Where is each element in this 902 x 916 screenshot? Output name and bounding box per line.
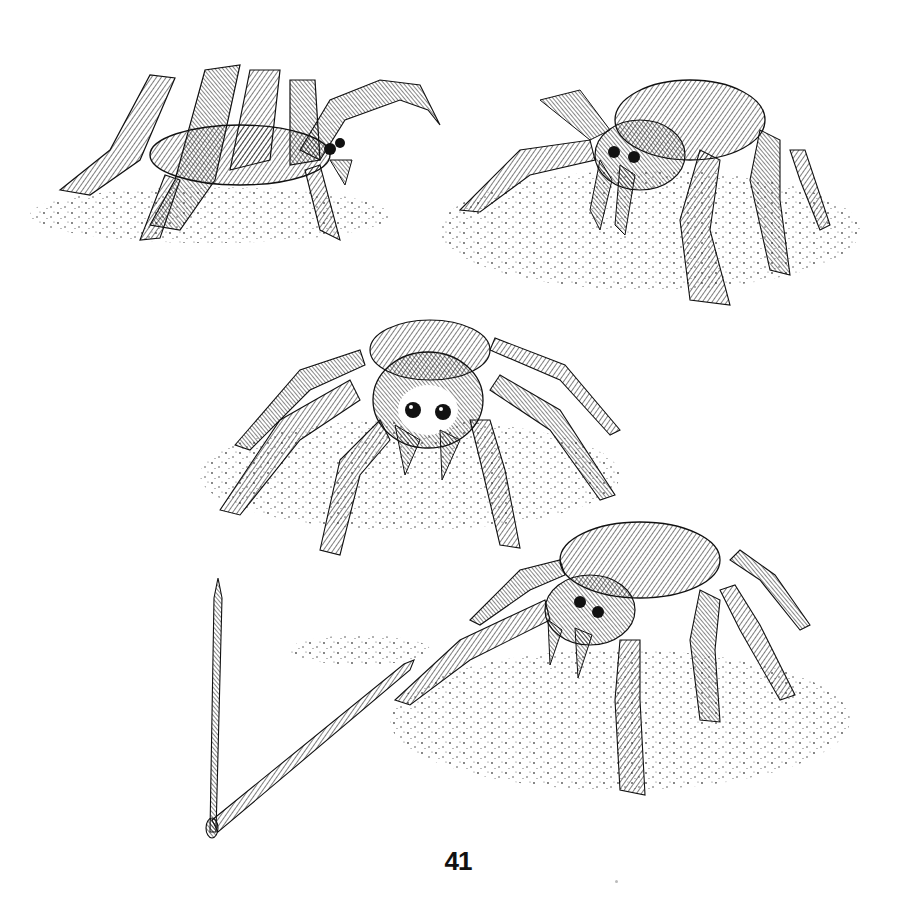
page-number: 41 bbox=[428, 846, 488, 877]
crossed-sticks bbox=[206, 578, 414, 838]
stray-mark bbox=[615, 880, 618, 883]
ground-stipple bbox=[30, 170, 860, 790]
illustration-page: 41 bbox=[0, 0, 902, 916]
tarantula-illustration bbox=[0, 0, 902, 916]
